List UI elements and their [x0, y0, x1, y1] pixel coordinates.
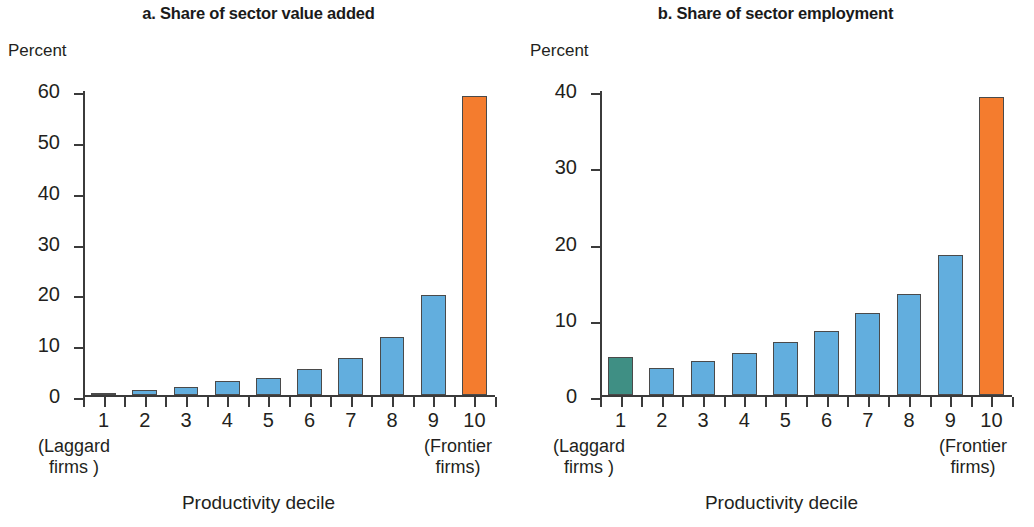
panel-a-title: a. Share of sector value added	[0, 4, 517, 23]
x-tick-boundary	[83, 397, 85, 407]
panel-b-bars	[600, 90, 1012, 395]
panel-b-laggard-line2: firms )	[531, 457, 647, 478]
x-tick-boundary	[248, 397, 250, 407]
y-tick: 40	[74, 195, 83, 197]
x-tick	[351, 397, 353, 407]
bar	[91, 393, 116, 395]
y-tick: 0	[591, 398, 600, 400]
x-tick-boundary	[724, 397, 726, 407]
x-tick	[145, 397, 147, 407]
panel-a-plot-area: 0102030405060	[83, 91, 495, 397]
panel-a: a. Share of sector value added Percent 0…	[0, 0, 517, 527]
x-tick-boundary	[930, 397, 932, 407]
bar	[691, 361, 716, 395]
bar	[215, 381, 240, 395]
bar	[855, 313, 880, 395]
bar	[979, 97, 1004, 395]
x-tick	[433, 397, 435, 407]
y-tick-label: 60	[38, 81, 60, 101]
x-tick-boundary	[806, 397, 808, 407]
x-tick	[392, 397, 394, 407]
y-tick: 30	[74, 246, 83, 248]
x-tick	[744, 397, 746, 407]
x-tick-label: 10	[980, 409, 1002, 431]
x-tick-label: 9	[945, 409, 956, 431]
x-tick	[703, 397, 705, 407]
x-tick-boundary	[682, 397, 684, 407]
y-tick-label: 10	[555, 310, 577, 330]
y-tick: 30	[591, 169, 600, 171]
x-tick	[785, 397, 787, 407]
panel-a-frontier-line1: (Frontier	[402, 436, 514, 457]
x-tick-boundary	[165, 397, 167, 407]
x-tick-boundary	[888, 397, 890, 407]
y-tick: 0	[74, 398, 83, 400]
y-tick-label: 20	[38, 284, 60, 304]
x-tick	[950, 397, 952, 407]
x-tick-boundary	[330, 397, 332, 407]
x-tick	[186, 397, 188, 407]
x-tick-label: 2	[656, 409, 667, 431]
bar	[773, 342, 798, 395]
x-tick-label: 6	[304, 409, 315, 431]
y-tick-label: 40	[38, 183, 60, 203]
bar	[174, 387, 199, 395]
y-tick: 20	[74, 296, 83, 298]
y-tick: 50	[74, 144, 83, 146]
x-tick-boundary	[765, 397, 767, 407]
x-tick	[827, 397, 829, 407]
x-tick-boundary	[371, 397, 373, 407]
bar	[338, 358, 363, 395]
x-tick-label: 8	[386, 409, 397, 431]
bar	[814, 331, 839, 395]
y-tick: 20	[591, 246, 600, 248]
x-tick	[310, 397, 312, 407]
bar	[732, 353, 757, 395]
panel-b-y-unit-label: Percent	[530, 41, 589, 61]
y-tick: 60	[74, 93, 83, 95]
x-tick	[991, 397, 993, 407]
bar	[256, 378, 281, 395]
x-tick	[909, 397, 911, 407]
x-tick-label: 1	[615, 409, 626, 431]
bar	[421, 295, 446, 395]
panel-a-laggard-note: (Laggard firms )	[16, 436, 132, 478]
panel-a-frontier-note: (Frontier firms)	[402, 436, 514, 478]
x-tick-label: 3	[180, 409, 191, 431]
y-tick-label: 0	[49, 386, 60, 406]
bar	[649, 368, 674, 395]
bar	[608, 357, 633, 395]
panel-b-title: b. Share of sector employment	[517, 4, 1034, 23]
bar	[462, 96, 487, 395]
x-tick-boundary	[124, 397, 126, 407]
x-tick-boundary	[641, 397, 643, 407]
x-tick	[868, 397, 870, 407]
x-tick-boundary	[1012, 397, 1014, 407]
x-tick-boundary	[495, 397, 497, 407]
panel-a-y-unit-label: Percent	[8, 41, 67, 61]
x-tick-label: 5	[780, 409, 791, 431]
panel-b-plot-area: 010203040	[600, 91, 1012, 397]
x-tick-label: 9	[428, 409, 439, 431]
panel-a-x-axis-title: Productivity decile	[0, 492, 517, 514]
y-tick-label: 10	[38, 335, 60, 355]
x-tick	[268, 397, 270, 407]
x-tick-label: 8	[903, 409, 914, 431]
x-tick-boundary	[454, 397, 456, 407]
bar	[897, 294, 922, 395]
panel-b-frontier-line2: firms)	[917, 457, 1029, 478]
y-tick: 10	[74, 347, 83, 349]
panel-b-frontier-line1: (Frontier	[917, 436, 1029, 457]
bar	[380, 337, 405, 395]
x-tick-label: 7	[345, 409, 356, 431]
y-tick-label: 0	[566, 386, 577, 406]
figure-two-panel-bar-charts: a. Share of sector value added Percent 0…	[0, 0, 1034, 527]
bar	[938, 255, 963, 395]
x-tick	[104, 397, 106, 407]
x-tick	[621, 397, 623, 407]
x-tick-label: 10	[463, 409, 485, 431]
x-tick-label: 4	[222, 409, 233, 431]
panel-a-laggard-line2: firms )	[16, 457, 132, 478]
x-tick-boundary	[847, 397, 849, 407]
y-tick-label: 20	[555, 234, 577, 254]
